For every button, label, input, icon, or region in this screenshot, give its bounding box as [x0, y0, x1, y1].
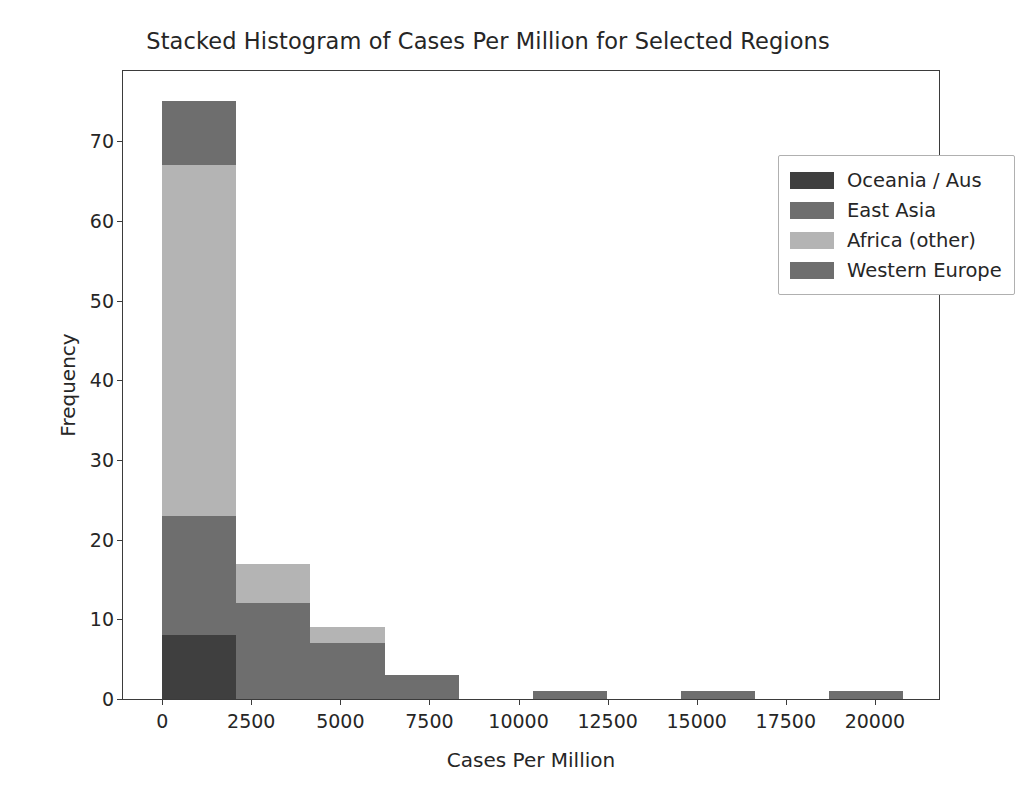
y-axis-label: Frequency [56, 333, 80, 436]
histogram-bar [385, 675, 459, 699]
x-tick-label: 7500 [405, 710, 453, 732]
x-tick-mark [162, 699, 163, 705]
legend-item-label: Western Europe [847, 259, 1002, 282]
legend-item-label: Oceania / Aus [847, 169, 982, 192]
y-tick-mark [117, 221, 123, 222]
x-tick-label: 12500 [577, 710, 637, 732]
histogram-bar-segment [829, 691, 903, 699]
legend-swatch-icon [790, 202, 834, 219]
legend-item: Western Europe [790, 255, 1002, 285]
y-tick-mark [117, 540, 123, 541]
histogram-bar-segment [162, 516, 236, 636]
histogram-bar-segment [533, 691, 607, 699]
histogram-bar-segment [162, 165, 236, 516]
y-tick-mark [117, 699, 123, 700]
histogram-bar [310, 627, 384, 699]
x-tick-label: 15000 [666, 710, 726, 732]
x-tick-mark [786, 699, 787, 705]
y-tick-mark [117, 460, 123, 461]
x-tick-label: 0 [156, 710, 168, 732]
y-tick-label: 70 [90, 130, 114, 152]
x-tick-mark [697, 699, 698, 705]
histogram-bar [236, 564, 310, 699]
y-tick-mark [117, 301, 123, 302]
x-tick-label: 17500 [756, 710, 816, 732]
y-tick-label: 30 [90, 449, 114, 471]
histogram-bar-segment [310, 627, 384, 643]
legend-item: Africa (other) [790, 225, 1002, 255]
histogram-bar [533, 691, 607, 699]
legend-item-label: East Asia [847, 199, 936, 222]
x-tick-mark [340, 699, 341, 705]
y-tick-mark [117, 619, 123, 620]
y-tick-label: 0 [102, 688, 114, 710]
histogram-bar [681, 691, 755, 699]
x-tick-mark [429, 699, 430, 705]
x-tick-mark [251, 699, 252, 705]
y-tick-mark [117, 380, 123, 381]
x-tick-mark [519, 699, 520, 705]
chart-legend: Oceania / AusEast AsiaAfrica (other)West… [778, 155, 1015, 295]
x-tick-mark [608, 699, 609, 705]
legend-swatch-icon [790, 262, 834, 279]
chart-title: Stacked Histogram of Cases Per Million f… [0, 28, 976, 54]
y-tick-label: 50 [90, 290, 114, 312]
histogram-bar [162, 101, 236, 699]
y-tick-mark [117, 141, 123, 142]
legend-swatch-icon [790, 232, 834, 249]
y-tick-label: 60 [90, 210, 114, 232]
legend-swatch-icon [790, 172, 834, 189]
legend-item: Oceania / Aus [790, 165, 1002, 195]
x-tick-mark [875, 699, 876, 705]
y-tick-label: 40 [90, 369, 114, 391]
y-tick-label: 20 [90, 529, 114, 551]
histogram-bar-segment [236, 603, 310, 699]
plot-frame: 010203040506070 025005000750010000125001… [122, 70, 940, 700]
histogram-bar-segment [162, 635, 236, 699]
histogram-bar [829, 691, 903, 699]
legend-item-label: Africa (other) [847, 229, 976, 252]
histogram-bar-segment [236, 564, 310, 604]
x-axis-label: Cases Per Million [122, 748, 940, 772]
histogram-bar-segment [681, 691, 755, 699]
y-tick-label: 10 [90, 608, 114, 630]
x-tick-label: 5000 [316, 710, 364, 732]
histogram-bar-segment [385, 675, 459, 699]
x-tick-label: 20000 [845, 710, 905, 732]
x-tick-label: 2500 [227, 710, 275, 732]
histogram-bar-segment [310, 643, 384, 699]
x-tick-label: 10000 [488, 710, 548, 732]
histogram-bar-segment [162, 101, 236, 165]
legend-item: East Asia [790, 195, 1002, 225]
